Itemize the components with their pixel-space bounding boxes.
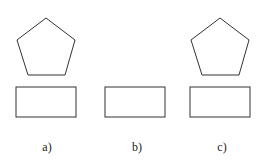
panel-label-a: a) bbox=[32, 140, 62, 155]
pentagon-c bbox=[191, 18, 249, 75]
pentagon-a bbox=[17, 18, 75, 75]
panel-b bbox=[105, 87, 165, 117]
panel-a bbox=[16, 18, 76, 117]
rectangle-b bbox=[105, 87, 165, 117]
rectangle-a bbox=[16, 87, 76, 117]
panel-c bbox=[190, 18, 250, 117]
rectangle-c bbox=[190, 87, 250, 117]
panel-label-b: b) bbox=[122, 140, 152, 155]
panel-label-c: c) bbox=[207, 140, 237, 155]
